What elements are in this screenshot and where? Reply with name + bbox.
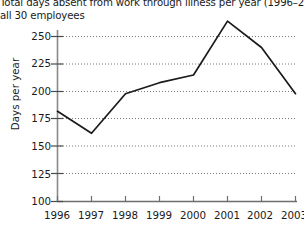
line-chart-plot xyxy=(0,0,304,228)
chart-root: Total days absent from work through illn… xyxy=(0,0,304,228)
x-axis-ticks xyxy=(58,196,296,202)
data-series-line xyxy=(58,21,296,133)
gridlines xyxy=(57,37,297,174)
axes xyxy=(57,30,297,202)
